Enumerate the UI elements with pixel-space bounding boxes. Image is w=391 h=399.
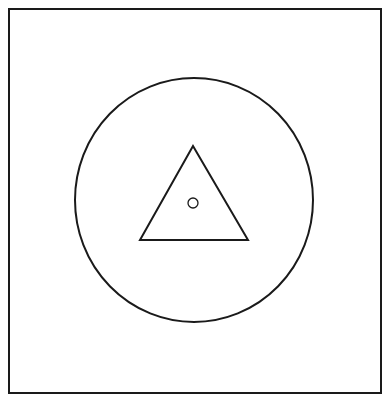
- diagram-canvas: [0, 0, 391, 399]
- square-frame: [9, 9, 381, 393]
- triangle: [140, 146, 248, 240]
- center-small-circle: [188, 198, 198, 208]
- outer-circle: [75, 78, 313, 322]
